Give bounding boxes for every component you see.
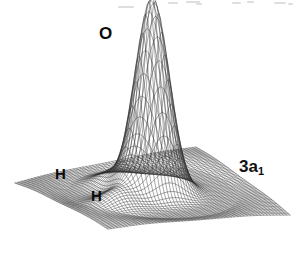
atom-label-oxygen: O [99,25,112,42]
orbital-label: 3a1 [239,158,264,177]
orbital-label-subscript: 1 [258,165,264,177]
surface-plot [0,0,306,260]
figure-root: O H H 3a1 [0,0,306,260]
atom-label-hydrogen-front: H [91,188,102,203]
atom-label-hydrogen-left: H [55,166,66,181]
orbital-label-main: 3a [239,157,258,176]
